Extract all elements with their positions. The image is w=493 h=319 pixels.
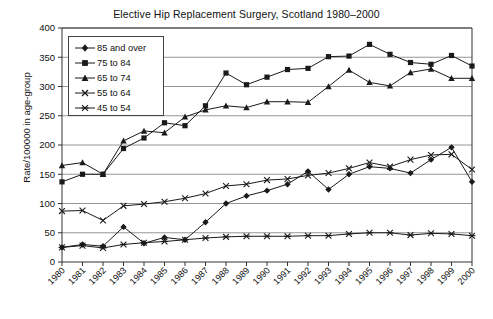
series-55-to-64 [59,151,475,223]
x-tick-label: 1983 [107,265,128,286]
data-point [448,231,455,237]
x-tick-label: 1984 [128,265,149,286]
x-tick-label: 1995 [353,265,374,286]
data-point [162,120,167,125]
legend-item-55-to-64: 55 to 64 [74,85,163,100]
y-tick-label: 200 [39,139,55,150]
data-point [428,230,435,236]
legend-label: 45 to 54 [96,103,131,113]
x-tick-label: 1994 [333,265,354,286]
data-point [202,235,209,241]
data-point [284,233,291,239]
legend-label: 85 and over [96,43,146,53]
legend-marker-diamond [74,42,96,54]
y-tick-label: 150 [39,169,55,180]
chart-legend: 85 and over 75 to 84 65 to 74 55 to 64 4… [68,36,164,116]
x-tick-label: 1998 [415,265,436,286]
legend-marker-square [74,57,96,69]
data-point [120,138,126,144]
x-tick-label: 1980 [46,265,67,286]
data-point [223,234,230,240]
legend-label: 65 to 74 [96,73,131,83]
data-point [408,60,413,65]
x-tick-label: 1986 [169,265,190,286]
x-tick-label: 2000 [456,265,477,286]
data-point [469,179,475,185]
x-tick-label: 1997 [394,265,415,286]
data-point [80,172,85,177]
legend-label: 75 to 84 [96,58,131,68]
data-point [469,63,474,68]
x-tick-label: 1987 [189,265,210,286]
data-point [79,159,85,165]
legend-label: 55 to 64 [96,88,131,98]
data-point [121,146,126,151]
data-point [366,230,373,236]
x-tick-label: 1990 [251,265,272,286]
data-point [264,187,270,193]
data-point [264,233,271,239]
data-point [120,242,127,248]
data-point [264,75,269,80]
data-point [325,233,332,239]
x-tick-label: 1981 [66,265,87,286]
x-tick-label: 1985 [148,265,169,286]
x-tick-label: 1996 [374,265,395,286]
x-tick-label: 1991 [271,265,292,286]
data-point [243,193,249,199]
data-point [59,179,64,184]
legend-item-85-and-over: 85 and over [74,40,163,55]
data-point [305,233,312,239]
data-point [449,53,454,58]
data-point [387,230,394,236]
y-axis-ticks: 050100150200250300350400 [39,22,62,267]
series-line [62,154,472,220]
data-point [346,67,352,73]
x-tick-label: 1999 [435,265,456,286]
data-point [305,66,310,71]
legend-marker-asterisk [74,102,96,114]
y-tick-label: 0 [50,256,55,267]
legend-item-45-to-54: 45 to 54 [74,100,163,115]
legend-marker-cross [74,87,96,99]
data-point [346,231,353,237]
data-point [100,218,106,224]
data-point [182,123,187,128]
data-point [244,82,249,87]
data-point [407,170,413,176]
y-tick-label: 350 [39,52,55,63]
x-tick-label: 1982 [87,265,108,286]
data-point [284,181,290,187]
data-point [243,233,250,239]
data-point [223,70,228,75]
x-tick-label: 1989 [230,265,251,286]
data-point [79,241,85,247]
legend-marker-triangle [74,72,96,84]
data-point [387,52,392,57]
data-point [346,53,351,58]
data-point [326,54,331,59]
y-tick-label: 400 [39,22,55,33]
data-point [285,67,290,72]
chart-figure: Elective Hip Replacement Surgery, Scotla… [0,0,493,319]
y-tick-label: 100 [39,198,55,209]
data-point [367,42,372,47]
y-tick-label: 300 [39,81,55,92]
legend-item-75-to-84: 75 to 84 [74,55,163,70]
x-tick-label: 1992 [292,265,313,286]
data-point [366,79,372,85]
y-tick-label: 50 [44,227,55,238]
legend-item-65-to-74: 65 to 74 [74,70,163,85]
x-tick-label: 1988 [210,265,231,286]
x-tick-label: 1993 [312,265,333,286]
data-point [141,135,146,140]
x-axis-ticks: 1980198119821983198419851986198719881989… [46,262,477,287]
y-tick-label: 250 [39,110,55,121]
